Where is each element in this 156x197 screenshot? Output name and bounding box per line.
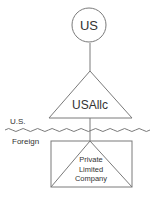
node-us-label: US [80,18,98,33]
border-wavy-line [5,129,150,132]
node-usa-llc[interactable]: USAllc [49,71,132,118]
border-label-us: U.S. [10,117,26,126]
border-label-foreign: Foreign [12,137,39,146]
entity-structure-diagram: US USAllc U.S. Foreign Private Limited C… [0,0,156,197]
node-llc-label: USAllc [72,98,108,112]
node-us-parent[interactable]: US [72,8,106,42]
node-subsidiary-label-line-1: Private [79,155,102,164]
node-subsidiary-label-line-3: Company [75,174,107,183]
node-private-limited-company[interactable]: Private Limited Company [51,141,132,187]
node-subsidiary-label-line-2: Limited [79,165,103,174]
